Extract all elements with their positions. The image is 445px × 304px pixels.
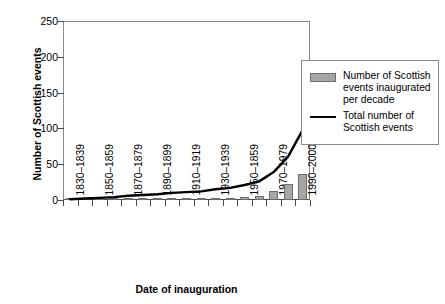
x-tick-mark	[150, 200, 151, 206]
x-tick-mark	[237, 200, 238, 206]
y-tick-label: 200	[16, 52, 58, 62]
chart-container: Number of Scottish events 05010015020025…	[0, 0, 445, 304]
y-tick-label: 250	[16, 16, 58, 26]
total-events-line	[70, 130, 302, 199]
x-axis-title: Date of inauguration	[63, 283, 310, 295]
line-series	[63, 21, 310, 200]
x-tick-mark	[179, 200, 180, 206]
x-tick-mark	[295, 200, 296, 206]
bar-swatch-icon	[310, 73, 336, 82]
y-tick-label: 50	[16, 159, 58, 169]
x-tick-mark	[92, 200, 93, 206]
x-tick-mark	[208, 200, 209, 206]
legend-label-bar-series: Number of Scottish events inaugurated pe…	[343, 70, 439, 107]
y-tick-label: 0	[16, 195, 58, 205]
y-tick-label: 100	[16, 123, 58, 133]
chart-legend: Number of Scottish events inaugurated pe…	[301, 60, 439, 145]
x-tick-mark	[63, 200, 64, 206]
legend-entry-line-series: Total number of Scottish events	[310, 110, 439, 134]
y-axis-title: Number of Scottish events	[31, 14, 43, 214]
y-tick-label: 150	[16, 88, 58, 98]
line-swatch-icon	[310, 116, 336, 118]
x-tick-mark	[121, 200, 122, 206]
legend-entry-bar-series: Number of Scottish events inaugurated pe…	[310, 70, 439, 107]
x-tick-mark	[266, 200, 267, 206]
legend-label-line-series: Total number of Scottish events	[343, 110, 439, 134]
